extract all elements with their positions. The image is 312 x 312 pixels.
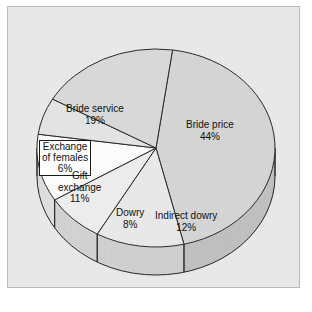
pie-slices-group — [37, 49, 275, 275]
pie-chart-figure: Bride price 44% Bride service 19% Exchan… — [0, 0, 312, 312]
chart-panel: Bride price 44% Bride service 19% Exchan… — [7, 6, 300, 288]
pie-chart-graphic — [8, 7, 300, 288]
